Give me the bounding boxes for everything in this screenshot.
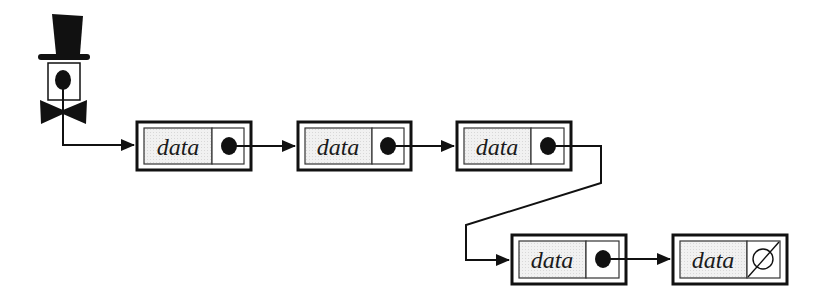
- node-data-label: data: [317, 134, 360, 160]
- list-node-1: data: [137, 122, 295, 170]
- node-data-label: data: [157, 134, 200, 160]
- node-data-label: data: [476, 134, 519, 160]
- head-pointer-dot-icon: [55, 70, 71, 90]
- list-node-2: data: [298, 122, 454, 170]
- node-data-label: data: [692, 247, 735, 273]
- linked-list-diagram: data data data data data: [0, 0, 821, 299]
- list-node-5: data: [673, 235, 787, 284]
- head-pointer: [38, 14, 134, 145]
- top-hat-icon: [38, 14, 90, 60]
- node-data-label: data: [531, 247, 574, 273]
- list-node-4: data: [512, 235, 670, 284]
